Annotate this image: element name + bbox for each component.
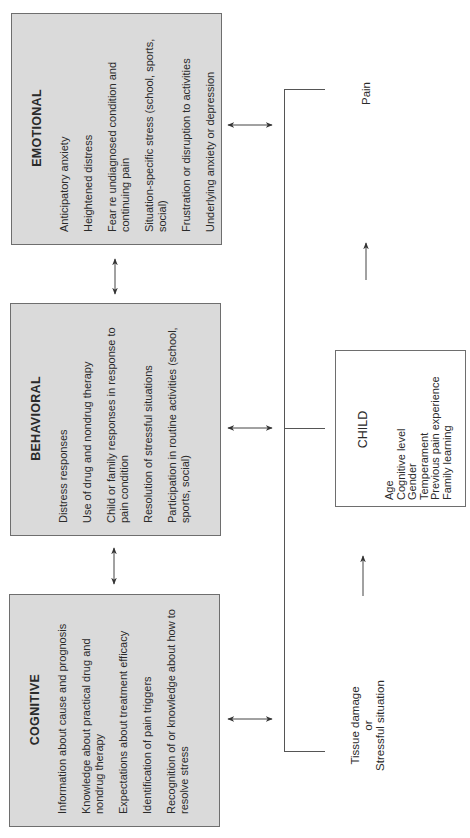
double-arrow-icon (114, 125, 272, 719)
arrow-up-icon (363, 243, 366, 596)
arrows-layer (0, 0, 470, 838)
